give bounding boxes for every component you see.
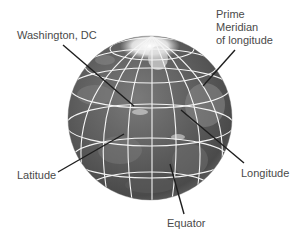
washington-dc-label: Washington, DC: [17, 29, 97, 42]
prime-meridian-label: Prime Meridian of longitude: [216, 8, 273, 47]
longitude-label: Longitude: [241, 167, 289, 180]
equator-label: Equator: [167, 217, 206, 230]
prime-meridian-label-line-3: of longitude: [216, 34, 273, 47]
prime-meridian-label-line-2: Meridian: [216, 21, 273, 34]
globe: [66, 32, 234, 202]
globe-diagram: Washington, DC Prime Meridian of longitu…: [0, 0, 301, 239]
latitude-label: Latitude: [17, 169, 56, 182]
prime-meridian-label-line-1: Prime: [216, 8, 273, 21]
